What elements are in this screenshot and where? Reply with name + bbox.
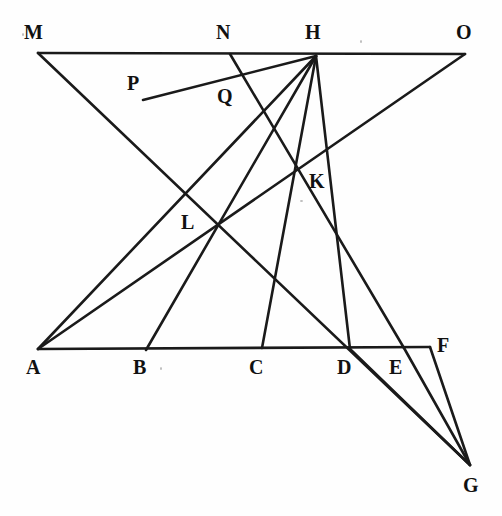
point-label-m: M [24,22,43,42]
point-label-h: H [305,22,321,42]
paper-speck [160,367,162,370]
point-label-f: F [437,335,449,355]
point-label-g: G [463,475,479,495]
paper-speck [22,33,24,36]
top-line-M-O [38,53,465,54]
point-label-k: K [309,171,325,191]
base-line-A-F [38,347,430,349]
point-label-l: L [181,212,194,232]
point-label-n: N [216,22,230,42]
line-H-D [316,56,350,349]
point-label-b: B [133,357,146,377]
segments-group [38,53,470,465]
point-label-o: O [456,22,472,42]
line-C-H [262,56,316,348]
point-label-d: D [337,357,351,377]
point-label-e: E [389,357,402,377]
geometry-figure: MNHOPQKLABCDEFG [0,0,502,516]
point-label-c: C [249,357,263,377]
paper-speck [360,40,362,43]
point-label-q: Q [217,86,233,106]
line-N-E [230,54,404,348]
line-A-O [38,54,465,349]
line-A-H [38,56,316,349]
point-label-a: A [26,357,40,377]
geometry-canvas [0,0,502,516]
point-label-p: P [127,73,139,93]
line-D-G [350,349,470,465]
paper-speck [300,200,303,202]
